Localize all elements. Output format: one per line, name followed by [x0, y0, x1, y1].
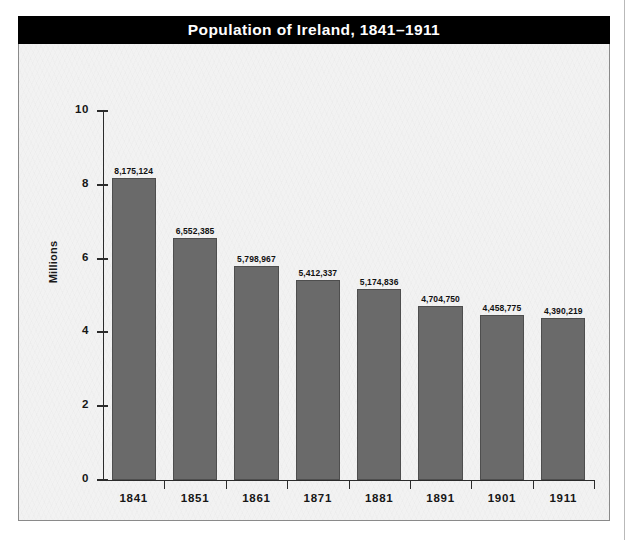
y-tick-label: 0 — [59, 472, 89, 484]
bar-value-label: 4,458,775 — [483, 303, 522, 313]
bar-value-label: 5,412,337 — [298, 268, 337, 278]
x-tick-mark — [471, 480, 472, 489]
x-tick-mark — [287, 480, 288, 489]
x-tick-mark — [226, 480, 227, 489]
chart-title: Population of Ireland, 1841–1911 — [188, 21, 440, 39]
x-tick-label: 1851 — [160, 492, 230, 504]
x-tick-label: 1901 — [467, 492, 537, 504]
x-tick-label: 1911 — [528, 492, 598, 504]
bar[interactable]: 5,412,337 — [296, 280, 340, 480]
y-axis-title: Millions — [47, 222, 59, 302]
y-tick-label: 2 — [59, 398, 89, 410]
x-tick-label: 1881 — [344, 492, 414, 504]
bar[interactable]: 4,458,775 — [480, 315, 524, 480]
bar-value-label: 6,552,385 — [176, 226, 215, 236]
x-tick-mark — [349, 480, 350, 489]
bar[interactable]: 8,175,124 — [112, 178, 156, 480]
bar[interactable]: 6,552,385 — [173, 238, 217, 480]
x-tick-label: 1871 — [283, 492, 353, 504]
x-tick-mark — [410, 480, 411, 489]
x-tick-mark — [164, 480, 165, 489]
y-tick-label: 6 — [59, 251, 89, 263]
bar[interactable]: 5,174,836 — [357, 289, 401, 480]
x-tick-label: 1861 — [221, 492, 291, 504]
bar[interactable]: 4,390,219 — [541, 318, 585, 480]
y-tick-label: 4 — [59, 324, 89, 336]
y-tick-label: 8 — [59, 177, 89, 189]
bar-value-label: 4,390,219 — [544, 306, 583, 316]
x-tick-mark — [533, 480, 534, 489]
page-margin-rule — [624, 0, 625, 540]
page-canvas: Population of Ireland, 1841–1911 Million… — [0, 0, 637, 540]
bar[interactable]: 5,798,967 — [234, 266, 278, 480]
y-tick-label: 10 — [59, 103, 89, 115]
x-tick-label: 1891 — [406, 492, 476, 504]
x-tick-label: 1841 — [99, 492, 169, 504]
x-tick-mark — [594, 480, 595, 489]
bar-value-label: 5,798,967 — [237, 254, 276, 264]
bar-value-label: 4,704,750 — [421, 294, 460, 304]
bar-value-label: 8,175,124 — [114, 166, 153, 176]
bar-value-label: 5,174,836 — [360, 277, 399, 287]
plot-area: 8,175,1246,552,3855,798,9675,412,3375,17… — [103, 111, 594, 480]
chart-figure: Population of Ireland, 1841–1911 Million… — [18, 16, 610, 521]
chart-title-banner: Population of Ireland, 1841–1911 — [18, 16, 610, 44]
bar[interactable]: 4,704,750 — [418, 306, 462, 480]
chart-panel: Millions 0246810 8,175,1246,552,3855,798… — [18, 44, 610, 521]
